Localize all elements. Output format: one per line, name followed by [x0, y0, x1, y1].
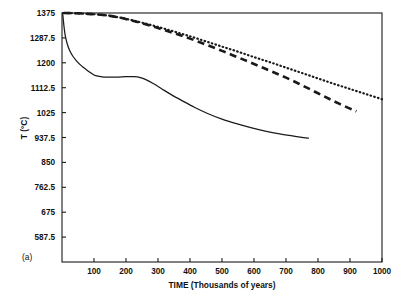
x-tick-label: 500 — [215, 267, 229, 276]
x-tick-label: 300 — [151, 267, 165, 276]
data-series-layer — [63, 13, 382, 138]
y-tick-label: 1375 — [37, 9, 56, 18]
y-tick-label: 762.5 — [35, 183, 56, 192]
x-tick-label: 100 — [87, 267, 101, 276]
series-solid-line — [63, 13, 309, 138]
panel-label-group: (a) — [22, 252, 32, 262]
series-dashed-line — [64, 13, 357, 111]
y-axis-tickmarks — [62, 13, 66, 237]
y-tick-label: 587.5 — [35, 233, 56, 242]
y-tick-label: 1287.5 — [30, 34, 55, 43]
x-tick-label: 700 — [279, 267, 293, 276]
y-axis-title: T (°C) — [19, 117, 29, 140]
y-tick-label: 1112.5 — [31, 84, 56, 93]
y-tick-label: 850 — [41, 158, 55, 167]
x-tick-label: 200 — [119, 267, 133, 276]
y-tick-label: 1200 — [37, 59, 56, 68]
x-axis-title-group: TIME (Thousands of years) — [168, 280, 275, 290]
y-axis-title-group: T (°C) — [19, 117, 29, 140]
y-axis-tick-labels: 587.5675762.5850937.510251112.512001287.… — [30, 9, 55, 242]
y-tick-label: 675 — [41, 208, 55, 217]
x-tick-label: 900 — [343, 267, 357, 276]
x-tick-label: 400 — [183, 267, 197, 276]
series-dotted-line — [64, 13, 382, 99]
x-tick-label: 1000 — [373, 267, 392, 276]
y-tick-label: 1025 — [37, 109, 56, 118]
panel-label: (a) — [22, 252, 32, 262]
x-axis-tickmarks — [94, 258, 382, 262]
temperature-vs-time-chart: 587.5675762.5850937.510251112.512001287.… — [0, 0, 405, 302]
x-tick-label: 800 — [311, 267, 325, 276]
x-axis-tick-labels: 1002003004005006007008009001000 — [87, 267, 391, 276]
x-axis-title: TIME (Thousands of years) — [168, 280, 275, 290]
x-tick-label: 600 — [247, 267, 261, 276]
y-tick-label: 937.5 — [35, 134, 56, 143]
figure-panel-a: 587.5675762.5850937.510251112.512001287.… — [0, 0, 405, 302]
